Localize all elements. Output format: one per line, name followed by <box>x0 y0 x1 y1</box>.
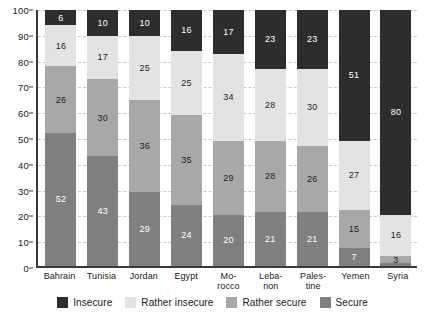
bar-value-label: 80 <box>391 107 401 117</box>
bar-value-label: 26 <box>307 174 317 184</box>
bar-segment[interactable]: 16 <box>45 25 76 66</box>
bar-segment[interactable]: 23 <box>297 10 328 69</box>
bar-segment[interactable]: 21 <box>297 212 328 266</box>
legend-swatch <box>125 297 136 308</box>
x-axis-label: Syria <box>382 271 413 291</box>
bar-segment[interactable]: 20 <box>213 215 244 266</box>
bar-segment[interactable]: 3 <box>380 256 411 264</box>
bar-segment[interactable]: 51 <box>339 10 370 141</box>
bar-segment[interactable]: 36 <box>129 100 160 192</box>
bar-value-label: 30 <box>98 113 108 123</box>
bar-segment[interactable]: 21 <box>255 212 286 266</box>
bar-segment[interactable]: 16 <box>380 215 411 256</box>
bar-value-label: 43 <box>98 206 108 216</box>
bar-column[interactable]: 43301710 <box>87 10 118 266</box>
bar-column[interactable]: 31680 <box>380 10 411 266</box>
y-axis-tick-label: 70 <box>18 82 29 93</box>
bar-segment[interactable]: 34 <box>213 54 244 141</box>
bar-column[interactable]: 5226166 <box>45 10 76 266</box>
y-axis-tick-label: 100 <box>13 5 29 16</box>
bar-segment[interactable]: 28 <box>255 69 286 141</box>
legend-swatch <box>320 297 331 308</box>
bar-value-label: 23 <box>307 34 317 44</box>
bar-segment[interactable]: 6 <box>45 10 76 25</box>
bar-segment[interactable]: 17 <box>87 36 118 80</box>
y-axis-tick-mark <box>29 87 33 88</box>
legend-item[interactable]: Rather insecure <box>125 297 213 308</box>
bar-value-label: 16 <box>391 230 401 240</box>
bar-segment[interactable]: 30 <box>297 69 328 146</box>
bar-segment[interactable]: 17 <box>213 10 244 54</box>
y-axis-tick-mark <box>29 10 33 11</box>
bar-segment[interactable]: 25 <box>129 36 160 100</box>
bar-column[interactable]: 29362510 <box>129 10 160 266</box>
bar-value-label: 15 <box>349 224 359 234</box>
bar-column[interactable]: 20293417 <box>213 10 244 266</box>
x-axis-label: Egypt <box>171 271 202 291</box>
bar-segment[interactable]: 27 <box>339 141 370 210</box>
bar-column[interactable]: 21263023 <box>297 10 328 266</box>
bar-segment[interactable]: 10 <box>129 10 160 36</box>
bar-segment[interactable]: 10 <box>87 10 118 36</box>
bar-segment[interactable]: 29 <box>213 141 244 215</box>
bar-value-label: 16 <box>56 41 66 51</box>
bar-value-label: 36 <box>139 141 149 151</box>
bar-segment[interactable]: 80 <box>380 10 411 215</box>
bar-value-label: 35 <box>181 155 191 165</box>
bar-value-label: 21 <box>307 234 317 244</box>
bar-segment[interactable]: 29 <box>129 192 160 266</box>
bar-segment[interactable]: 15 <box>339 210 370 248</box>
bar-segment[interactable]: 16 <box>171 10 202 51</box>
y-axis-tick-mark <box>29 268 33 269</box>
bar-value-label: 7 <box>351 252 356 262</box>
legend-swatch <box>57 297 68 308</box>
y-axis-tick-label: 80 <box>18 56 29 67</box>
y-axis-tick-label: 10 <box>18 237 29 248</box>
y-axis-tick-mark <box>29 164 33 165</box>
bar-value-label: 52 <box>56 194 66 204</box>
plot-area: 5226166433017102936251024352516202934172… <box>36 10 417 268</box>
y-axis-tick-mark <box>29 242 33 243</box>
bar-segment[interactable]: 28 <box>255 141 286 213</box>
bar-value-label: 28 <box>265 171 275 181</box>
legend-item[interactable]: Insecure <box>57 297 112 308</box>
bar-value-label: 16 <box>181 25 191 35</box>
bar-segment[interactable]: 26 <box>45 66 76 133</box>
legend-item[interactable]: Secure <box>320 297 368 308</box>
bar-segment[interactable]: 35 <box>171 115 202 205</box>
bar-segment[interactable]: 23 <box>255 10 286 69</box>
bar-value-label: 17 <box>98 52 108 62</box>
bar-segment[interactable]: 30 <box>87 79 118 156</box>
bar-segment[interactable]: 25 <box>171 51 202 115</box>
bar-column[interactable]: 7152751 <box>339 10 370 266</box>
y-axis-tick-label: 30 <box>18 185 29 196</box>
bar-segment[interactable]: 24 <box>171 205 202 266</box>
bar-segment[interactable]: 7 <box>339 248 370 266</box>
legend-label: Rather secure <box>242 297 306 308</box>
bar-value-label: 34 <box>223 92 233 102</box>
bar-segment[interactable]: 26 <box>297 146 328 213</box>
bar-value-label: 25 <box>139 63 149 73</box>
y-axis-tick-mark <box>29 113 33 114</box>
bar-column[interactable]: 21282823 <box>255 10 286 266</box>
bar-value-label: 28 <box>265 100 275 110</box>
legend-item[interactable]: Rather secure <box>226 297 306 308</box>
x-axis-label: Yemen <box>340 271 371 291</box>
bar-segment[interactable]: 52 <box>45 133 76 266</box>
bar-value-label: 10 <box>139 18 149 28</box>
y-axis-tick-label: 50 <box>18 134 29 145</box>
legend-label: Rather insecure <box>141 297 213 308</box>
bar-value-label: 29 <box>223 173 233 183</box>
bar-column[interactable]: 24352516 <box>171 10 202 266</box>
bar-segment[interactable] <box>380 263 411 266</box>
x-axis-label: Bahrain <box>44 271 75 291</box>
bar-segment[interactable]: 43 <box>87 156 118 266</box>
stacked-bar-chart: 0102030405060708090100 52261664330171029… <box>0 0 425 319</box>
y-axis-tick-label: 90 <box>18 30 29 41</box>
y-axis-tick-mark <box>29 216 33 217</box>
y-axis-tick-mark <box>29 190 33 191</box>
x-axis-label: Leba-non <box>255 271 286 291</box>
bar-group: 5226166433017102936251024352516202934172… <box>40 10 417 266</box>
bar-value-label: 23 <box>265 34 275 44</box>
bar-value-label: 24 <box>181 230 191 240</box>
